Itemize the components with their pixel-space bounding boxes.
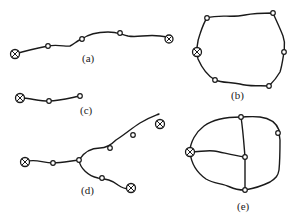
subfigure-e: (e): [186, 115, 281, 213]
source-icon: [11, 50, 20, 59]
node-icon: [100, 176, 105, 181]
node-icon: [77, 158, 82, 163]
node-icon: [131, 133, 136, 138]
source-icon: [16, 94, 25, 103]
loop-line-b: [197, 13, 285, 86]
node-icon: [46, 44, 51, 49]
source-icon: [186, 148, 195, 157]
subfigure-c: (c): [16, 94, 93, 118]
horizontal-tie-e: [190, 151, 245, 157]
source-icon: [21, 158, 30, 167]
node-icon: [282, 50, 287, 55]
node-icon: [78, 94, 83, 99]
subfigure-label-d: (d): [81, 184, 94, 197]
node-icon: [51, 161, 56, 166]
node-icon: [47, 99, 52, 104]
subfigure-label-e: (e): [237, 200, 250, 213]
outer-loop-e: [190, 117, 280, 190]
subfigure-label-a: (a): [82, 52, 95, 65]
source-icon: [127, 184, 136, 193]
node-icon: [267, 84, 272, 89]
node-icon: [108, 146, 113, 151]
node-icon: [118, 31, 123, 36]
source-icon: [156, 120, 165, 129]
node-icon: [205, 16, 210, 21]
node-icon: [243, 188, 248, 193]
subfigure-d: (d): [21, 114, 165, 197]
node-icon: [213, 78, 218, 83]
node-icon: [243, 155, 248, 160]
vertical-tie-e: [241, 117, 245, 190]
feeder-line-a: [15, 32, 170, 54]
subfigure-label-c: (c): [80, 104, 93, 117]
node-icon: [271, 11, 276, 16]
node-icon: [239, 115, 244, 120]
subfigure-b: (b): [193, 11, 287, 102]
network-topology-diagram: (a) (b) (c): [0, 0, 297, 222]
node-icon: [276, 131, 281, 136]
source-icon: [165, 35, 173, 43]
source-icon: [193, 48, 202, 57]
branch-upper-d: [79, 114, 159, 160]
subfigure-label-b: (b): [231, 89, 244, 102]
subfigure-a: (a): [11, 31, 174, 65]
node-icon: [80, 37, 85, 42]
